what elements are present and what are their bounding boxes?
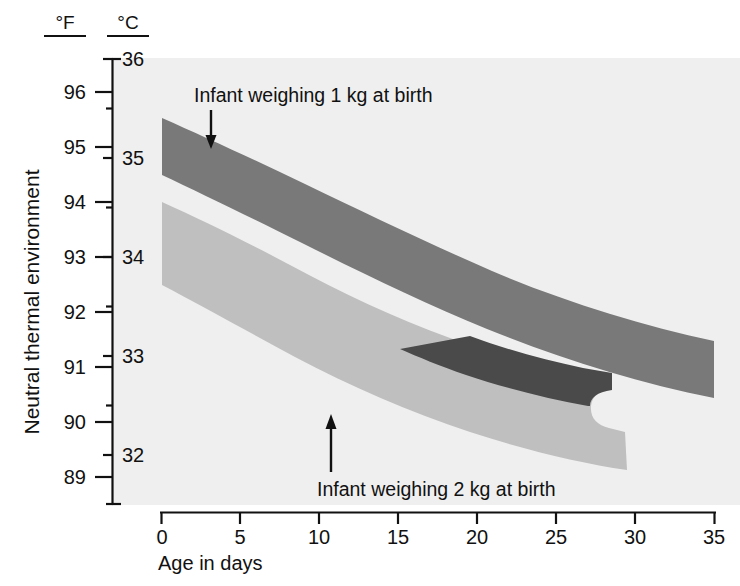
- xtick-10: 10: [299, 527, 339, 547]
- ytick-f-96: 96: [24, 82, 86, 102]
- thermal-environment-chart: °F °C 96 95 94 93 92 91 90 89 36 35 34 3…: [0, 0, 740, 586]
- xtick-30: 30: [615, 527, 655, 547]
- fahrenheit-axis-title: °F: [44, 12, 86, 37]
- celsius-axis-title-text: °C: [117, 12, 138, 33]
- xtick-15: 15: [378, 527, 418, 547]
- celsius-axis-title: °C: [107, 12, 149, 37]
- celsius-underline: [107, 35, 149, 37]
- xtick-0: 0: [142, 527, 182, 547]
- annotation-label-1kg: Infant weighing 1 kg at birth: [194, 84, 433, 107]
- figure-caption: [6, 572, 734, 585]
- ytick-c-33: 33: [122, 346, 144, 366]
- fahrenheit-axis-title-text: °F: [55, 12, 74, 33]
- y-axis-label: Neutral thermal environment: [20, 132, 44, 472]
- xtick-20: 20: [457, 527, 497, 547]
- ytick-c-32: 32: [122, 445, 144, 465]
- x-axis-ticks: [162, 512, 715, 524]
- annotation-label-2kg: Infant weighing 2 kg at birth: [317, 478, 556, 501]
- ytick-c-35: 35: [122, 148, 144, 168]
- xtick-5: 5: [220, 527, 260, 547]
- xtick-35: 35: [694, 527, 734, 547]
- ytick-c-36: 36: [122, 49, 144, 69]
- fahrenheit-underline: [44, 35, 86, 37]
- xtick-25: 25: [536, 527, 576, 547]
- ytick-c-34: 34: [122, 247, 144, 267]
- fahrenheit-ticks: [95, 92, 113, 477]
